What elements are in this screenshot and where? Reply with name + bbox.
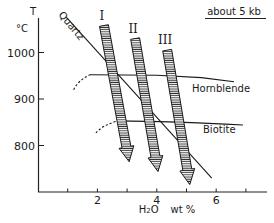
chart-title: about 5 kb <box>207 6 261 17</box>
x-axis-label: H2Owt % <box>139 204 196 215</box>
arrow-label: I <box>100 9 105 23</box>
y-axis-unit: °C <box>16 23 28 34</box>
arrow-iii: III <box>158 33 195 184</box>
x-axis-label-h2o: H <box>139 204 147 215</box>
biotite-label: Biotite <box>203 124 236 135</box>
arrow-label: II <box>128 22 138 36</box>
hornblende-dashed-extension-line <box>74 75 90 90</box>
y-tick-label: 800 <box>14 140 35 153</box>
x-tick-label: 2 <box>94 194 101 207</box>
arrow-label: III <box>158 33 172 47</box>
hatched-arrow <box>100 25 134 162</box>
x-tick-label: 6 <box>213 194 220 207</box>
hatched-arrow <box>131 38 163 172</box>
y-tick-label: 900 <box>14 93 35 106</box>
h2o-temperature-chart: T °C 1000900800 246 H2Owt % about 5 kb I… <box>0 0 274 223</box>
arrow-layer: IIIIII <box>100 9 195 185</box>
y-axis-label: T <box>29 6 37 17</box>
quartz-label: Quartz <box>56 9 86 42</box>
biotite-dashed-extension-line <box>96 121 118 133</box>
hornblende-label: Hornblende <box>192 83 250 94</box>
hatched-arrow <box>163 49 195 184</box>
y-tick-label: 1000 <box>7 47 35 60</box>
